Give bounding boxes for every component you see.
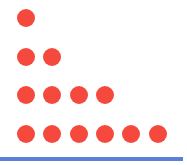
dot [70,86,88,104]
dot [43,86,61,104]
dot [70,125,88,143]
dot [43,125,61,143]
dot [17,125,35,143]
dot [96,125,114,143]
dot [122,125,140,143]
dot [96,86,114,104]
dot [43,48,61,66]
dot [17,86,35,104]
baseline-rule [0,157,183,161]
dot [17,9,35,27]
dot [17,48,35,66]
dot [149,125,167,143]
